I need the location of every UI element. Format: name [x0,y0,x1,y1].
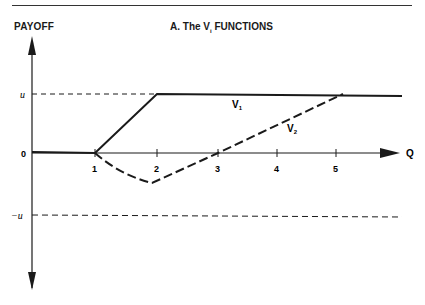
y-axis [28,36,36,290]
x-tick-3: 3 [215,164,220,174]
neg-u-reference-line [32,215,402,217]
x-tick-4: 4 [274,164,279,174]
v2-label: V2 [287,123,298,135]
v1-label: V1 [232,99,243,111]
arrow-down-icon [28,272,36,290]
chart-canvas: 1 2 3 4 5 Q u 0 −u V1 V2 [0,0,425,305]
y-level-u: u [20,89,25,100]
x-axis-label: Q [406,148,414,159]
x-tick-2: 2 [154,164,159,174]
x-tick-5: 5 [333,164,338,174]
y-level-zero: 0 [21,149,26,159]
arrow-up-icon [28,36,36,55]
v1-curve [32,94,402,153]
arrow-right-icon [380,148,400,158]
y-level-neg-u: −u [11,210,23,221]
x-tick-1: 1 [92,164,97,174]
